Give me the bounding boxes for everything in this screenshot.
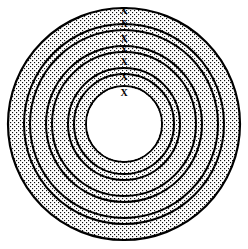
ring-core-fill xyxy=(87,87,161,161)
ring-diagram-figure: X X X X X X X xyxy=(0,0,248,249)
ring-diagram-canvas xyxy=(0,0,248,249)
rings-group xyxy=(8,8,240,240)
